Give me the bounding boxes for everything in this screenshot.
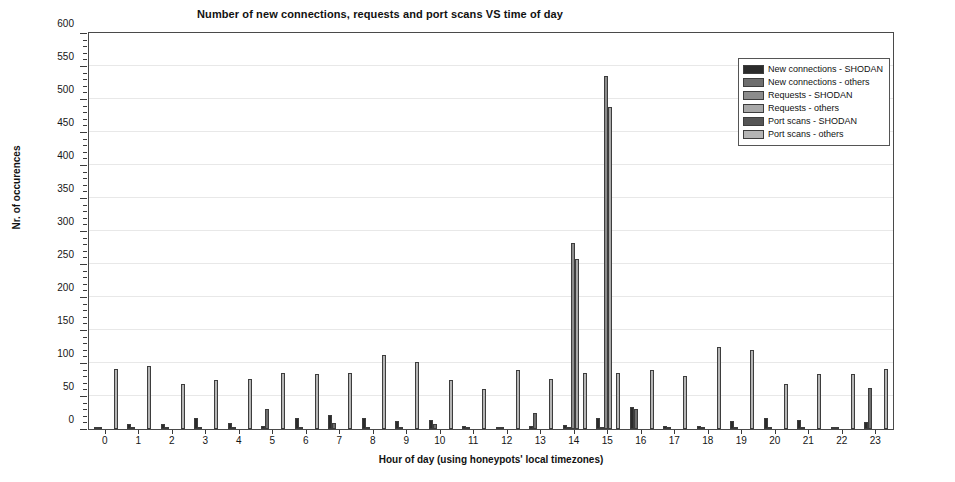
legend-swatch-icon bbox=[743, 104, 764, 113]
x-tick-mark bbox=[708, 430, 709, 434]
y-tick-label: 600 bbox=[57, 19, 74, 29]
bar bbox=[165, 427, 169, 429]
x-tick-mark bbox=[741, 430, 742, 434]
bar bbox=[575, 259, 579, 429]
legend-swatch-icon bbox=[743, 91, 764, 100]
bar bbox=[801, 427, 805, 429]
legend-item[interactable]: New connections - SHODAN bbox=[743, 63, 883, 76]
x-tick-mark bbox=[473, 430, 474, 434]
bar bbox=[198, 427, 202, 429]
bar bbox=[299, 427, 303, 429]
legend-item[interactable]: Port scans - others bbox=[743, 128, 883, 141]
bar bbox=[181, 384, 185, 429]
y-tick-label: 150 bbox=[57, 316, 74, 326]
bar bbox=[265, 409, 269, 429]
y-tick-minor bbox=[83, 284, 87, 285]
y-tick-label: 0 bbox=[68, 415, 74, 425]
y-tick-minor bbox=[83, 40, 87, 41]
bar bbox=[332, 423, 336, 429]
bar bbox=[650, 370, 654, 429]
bar bbox=[835, 427, 839, 429]
x-tick-mark bbox=[339, 430, 340, 434]
bar bbox=[382, 355, 386, 429]
x-tick-label: 12 bbox=[501, 436, 512, 446]
y-tick-minor bbox=[83, 257, 87, 258]
legend-swatch-icon bbox=[743, 78, 764, 87]
y-tick-minor bbox=[83, 92, 87, 93]
y-tick-minor bbox=[83, 304, 87, 305]
x-tick-label: 21 bbox=[803, 436, 814, 446]
bar bbox=[784, 384, 788, 429]
y-tick-label: 400 bbox=[57, 151, 74, 161]
x-tick-label: 5 bbox=[269, 436, 275, 446]
x-tick-mark bbox=[507, 430, 508, 434]
legend-swatch-icon bbox=[743, 117, 764, 126]
bar bbox=[466, 427, 470, 429]
y-tick-label: 300 bbox=[57, 217, 74, 227]
y-axis-label: Nr. of occurences bbox=[11, 108, 22, 268]
x-tick-mark bbox=[607, 430, 608, 434]
y-tick-label: 50 bbox=[63, 382, 74, 392]
y-tick-minor bbox=[83, 251, 87, 252]
legend-swatch-icon bbox=[743, 130, 764, 139]
y-tick-minor bbox=[83, 185, 87, 186]
x-tick-mark bbox=[574, 430, 575, 434]
bar bbox=[500, 427, 504, 429]
bar bbox=[98, 427, 102, 429]
bar bbox=[608, 107, 612, 429]
bar bbox=[884, 369, 888, 429]
bar bbox=[449, 380, 453, 429]
y-tick-major bbox=[80, 132, 87, 133]
y-tick-major bbox=[80, 198, 87, 199]
y-axis: Nr. of occurences 0501001502002503003504… bbox=[0, 32, 88, 430]
x-tick-label: 14 bbox=[568, 436, 579, 446]
bar bbox=[232, 427, 236, 429]
x-tick-mark bbox=[373, 430, 374, 434]
legend-label: Requests - others bbox=[768, 104, 839, 113]
legend-item[interactable]: Requests - SHODAN bbox=[743, 89, 883, 102]
x-tick-label: 6 bbox=[303, 436, 309, 446]
y-tick-major bbox=[80, 99, 87, 100]
y-tick-major bbox=[80, 231, 87, 232]
bar bbox=[482, 389, 486, 429]
y-tick-minor bbox=[83, 317, 87, 318]
bar bbox=[399, 427, 403, 429]
x-tick-mark bbox=[842, 430, 843, 434]
y-tick-major bbox=[80, 429, 87, 430]
gridline bbox=[89, 164, 893, 165]
x-tick-label: 22 bbox=[836, 436, 847, 446]
bar bbox=[817, 374, 821, 429]
legend-label: Port scans - others bbox=[768, 130, 844, 139]
y-tick-minor bbox=[83, 356, 87, 357]
x-tick-label: 17 bbox=[669, 436, 680, 446]
bar bbox=[701, 427, 705, 429]
legend-item[interactable]: Requests - others bbox=[743, 102, 883, 115]
legend-label: Requests - SHODAN bbox=[768, 91, 853, 100]
bar bbox=[667, 427, 671, 429]
x-tick-label: 13 bbox=[535, 436, 546, 446]
bar bbox=[214, 380, 218, 429]
x-tick-mark bbox=[440, 430, 441, 434]
chart-legend: New connections - SHODANNew connections … bbox=[738, 58, 890, 146]
bar bbox=[114, 369, 118, 429]
chart-figure: Number of new connections, requests and … bbox=[0, 0, 955, 482]
y-tick-minor bbox=[83, 416, 87, 417]
bar bbox=[348, 373, 352, 429]
legend-item[interactable]: Port scans - SHODAN bbox=[743, 115, 883, 128]
x-tick-label: 16 bbox=[635, 436, 646, 446]
bar bbox=[750, 350, 754, 429]
x-tick-mark bbox=[105, 430, 106, 434]
bar bbox=[616, 373, 620, 429]
y-tick-minor bbox=[83, 139, 87, 140]
x-tick-label: 9 bbox=[403, 436, 409, 446]
gridline bbox=[89, 197, 893, 198]
x-tick-label: 20 bbox=[769, 436, 780, 446]
x-tick-label: 4 bbox=[236, 436, 242, 446]
y-tick-minor bbox=[83, 343, 87, 344]
y-tick-label: 450 bbox=[57, 118, 74, 128]
legend-item[interactable]: New connections - others bbox=[743, 76, 883, 89]
y-tick-minor bbox=[83, 112, 87, 113]
y-tick-minor bbox=[83, 310, 87, 311]
y-tick-minor bbox=[83, 119, 87, 120]
y-tick-minor bbox=[83, 238, 87, 239]
